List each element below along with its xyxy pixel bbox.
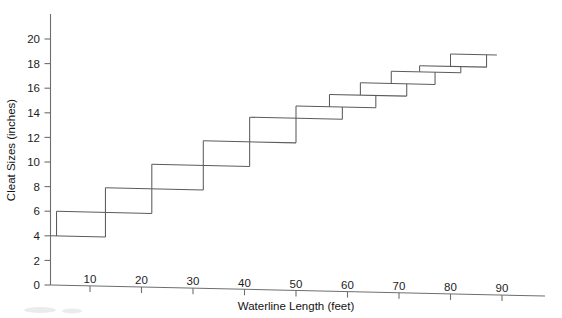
y-tick-label: 4 xyxy=(34,230,41,242)
y-tick-label: 12 xyxy=(27,132,40,144)
step-tread xyxy=(329,94,406,96)
y-tick-label: 14 xyxy=(27,107,40,119)
x-tick-label: 50 xyxy=(290,278,303,290)
x-tick-label: 10 xyxy=(84,273,97,285)
scan-artifact xyxy=(62,309,82,314)
y-tick-marks xyxy=(45,39,51,285)
x-axis-title: Waterline Length (feet) xyxy=(238,300,355,312)
y-tick-label: 6 xyxy=(34,205,40,217)
step-tread xyxy=(420,66,487,67)
y-tick-label: 20 xyxy=(27,33,40,45)
y-tick-label: 8 xyxy=(34,181,40,193)
step-tread xyxy=(57,211,152,213)
x-tick-label: 90 xyxy=(496,282,509,294)
y-tick-labels: 0 2 4 6 8 10 12 14 16 18 20 xyxy=(27,33,40,291)
step-chart: 0 2 4 6 8 10 12 14 16 18 20 10 20 xyxy=(0,0,562,318)
y-tick-label: 10 xyxy=(27,156,40,168)
step-tread xyxy=(360,83,435,85)
scan-artifact xyxy=(24,307,56,313)
x-tick-label: 20 xyxy=(135,274,148,286)
x-tick-label: 40 xyxy=(238,277,251,289)
y-tick-label: 0 xyxy=(34,279,40,291)
x-tick-label: 80 xyxy=(444,281,457,293)
step-tread xyxy=(391,71,461,73)
step-tread xyxy=(152,164,250,166)
step-tread xyxy=(451,54,497,55)
step-tread xyxy=(51,236,106,237)
step-tread xyxy=(105,188,203,190)
chart-figure: 0 2 4 6 8 10 12 14 16 18 20 10 20 xyxy=(0,0,562,318)
x-tick-label: 30 xyxy=(187,275,200,287)
y-tick-label: 18 xyxy=(27,58,40,70)
step-series xyxy=(51,54,497,237)
y-axis-title: Cleat Sizes (inches) xyxy=(5,99,17,201)
x-tick-label: 70 xyxy=(393,280,406,292)
step-tread xyxy=(296,106,376,108)
y-tick-label: 16 xyxy=(27,82,40,94)
y-tick-label: 2 xyxy=(34,255,40,267)
x-tick-label: 60 xyxy=(341,279,354,291)
